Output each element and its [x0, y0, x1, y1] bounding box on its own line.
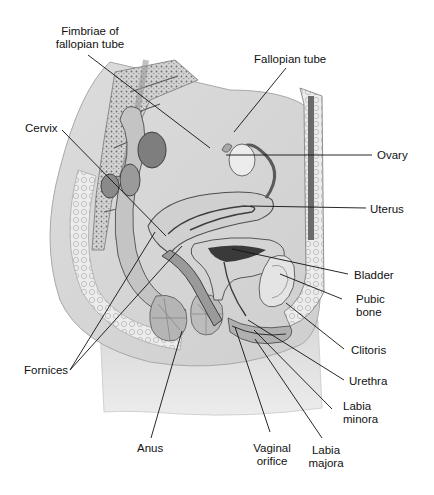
label-fimbriae: Fimbriae of fallopian tube: [52, 25, 128, 50]
label-bladder: Bladder: [354, 269, 394, 282]
label-fornices: Fornices: [24, 364, 68, 377]
bowel-loop-2: [138, 132, 166, 168]
sigmoid-loop: [101, 174, 119, 198]
label-cervix: Cervix: [25, 122, 58, 135]
ovary-shape: [229, 144, 255, 176]
label-clitoris: Clitoris: [351, 344, 386, 357]
label-urethra: Urethra: [349, 375, 387, 388]
label-pubic-bone: Pubic bone: [356, 293, 385, 318]
label-ovary: Ovary: [377, 149, 408, 162]
label-labia-majora: Labia majora: [304, 444, 348, 469]
rectus-muscle: [308, 96, 314, 240]
label-fallopian-tube: Fallopian tube: [254, 53, 326, 66]
anatomy-diagram: Fimbriae of fallopian tube Fallopian tub…: [0, 0, 434, 495]
label-labia-minora: Labia minora: [343, 400, 378, 425]
label-vaginal-orifice: Vaginal orifice: [248, 442, 296, 467]
label-uterus: Uterus: [370, 203, 404, 216]
label-anus: Anus: [137, 442, 163, 455]
bowel-loop: [120, 164, 140, 196]
